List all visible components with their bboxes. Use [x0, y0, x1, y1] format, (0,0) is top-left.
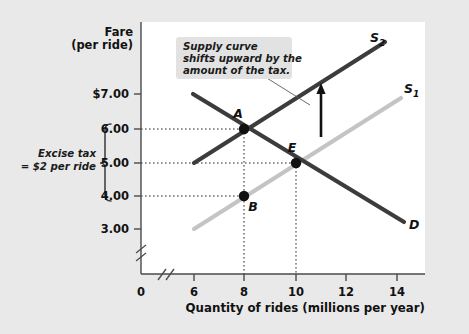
x-tick-label-10: 10: [288, 285, 304, 299]
point-b-label: B: [248, 199, 258, 214]
x-tick-label-6: 6: [190, 285, 198, 299]
curve-label-s1-sub: 1: [413, 89, 419, 99]
x-tick-label-12: 12: [338, 285, 354, 299]
y-tick-label-4: 4.00: [101, 189, 129, 203]
point-e-label: E: [288, 140, 297, 155]
curve-label-d: D: [409, 217, 419, 232]
y-tick-label-7: $7.00: [93, 87, 129, 101]
y-tick-label-6: 6.00: [101, 122, 129, 136]
callout-text-line3: amount of the tax.: [183, 65, 290, 76]
x-axis-title: Quantity of rides (millions per year): [186, 301, 425, 315]
x-tick-label-14: 14: [389, 285, 405, 299]
x-tick-label-8: 8: [240, 285, 248, 299]
chart-svg: Fare (per ride) $7.00 6.00 5.00 4.00 3.0…: [0, 0, 469, 334]
point-e-marker: [291, 158, 301, 168]
excise-tax-label-line2: = $2 per ride: [21, 161, 96, 172]
y-axis-title-line1: Fare: [105, 25, 134, 39]
callout-text-line1: Supply curve: [183, 41, 258, 52]
y-axis-title-line2: (per ride): [71, 38, 133, 52]
excise-tax-label-line1: Excise tax: [38, 148, 96, 159]
y-tick-label-3: 3.00: [101, 222, 129, 236]
curve-label-s1-main: S: [404, 81, 413, 96]
origin-label: 0: [137, 285, 145, 299]
curve-label-s2-sub: 2: [379, 38, 385, 48]
callout-text-line2: shifts upward by the: [183, 53, 302, 64]
y-tick-label-5: 5.00: [101, 156, 129, 170]
curve-label-s2-main: S: [370, 30, 379, 45]
point-a-label: A: [232, 106, 243, 121]
point-a-marker: [239, 124, 249, 134]
economics-supply-demand-figure: Fare (per ride) $7.00 6.00 5.00 4.00 3.0…: [0, 0, 469, 334]
